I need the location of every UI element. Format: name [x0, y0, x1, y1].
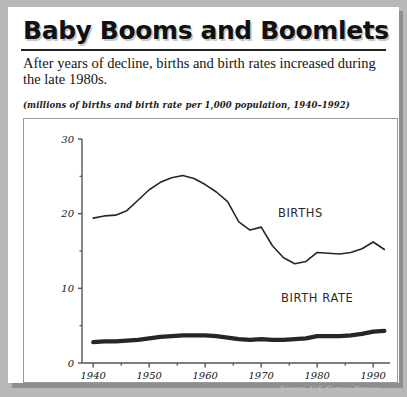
line-chart: 0102030194019501960197019801990BIRTHSBIR… — [24, 119, 397, 382]
figure-page: Baby Booms and Boomlets After years of d… — [0, 0, 407, 397]
x-tick-label: 1980 — [304, 370, 330, 381]
x-tick-label: 1990 — [360, 370, 386, 381]
source-caption: Source: U.S. Census Bureau — [280, 385, 380, 393]
subtitle-text: After years of decline, births and birth… — [23, 55, 383, 87]
series-annotation-births: BIRTHS — [278, 206, 323, 220]
units-note: (millions of births and birth rate per 1… — [23, 100, 383, 110]
x-tick-label: 1970 — [248, 370, 274, 381]
x-tick-label: 1960 — [192, 370, 218, 381]
page-title: Baby Booms and Boomlets — [23, 16, 389, 45]
series-line-births — [93, 176, 384, 264]
y-tick-label: 30 — [61, 134, 74, 145]
chart-container: 0102030194019501960197019801990BIRTHSBIR… — [23, 118, 398, 383]
y-tick-label: 10 — [61, 283, 74, 294]
title-divider — [21, 49, 386, 51]
series-line-birth-rate — [93, 331, 384, 342]
x-tick-label: 1940 — [80, 370, 106, 381]
x-tick-label: 1950 — [136, 370, 162, 381]
series-annotation-birth-rate: BIRTH RATE — [281, 291, 354, 305]
figure-panel: Baby Booms and Boomlets After years of d… — [9, 8, 398, 382]
y-tick-label: 0 — [68, 358, 75, 369]
y-tick-label: 20 — [60, 208, 74, 219]
